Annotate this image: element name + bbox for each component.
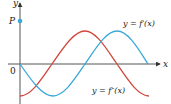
point-p-marker (18, 19, 23, 24)
f-double-prime-label: y = f″(x) (91, 86, 125, 95)
origin-label: 0 (10, 66, 16, 76)
point-p-label: P (8, 16, 16, 26)
f-prime-label: y = f′(x) (122, 19, 155, 28)
x-axis-label: x (163, 59, 168, 69)
y-axis-label: y (12, 0, 19, 8)
chart: y x 0 P y = f′(x) y = f″(x) (0, 0, 171, 104)
